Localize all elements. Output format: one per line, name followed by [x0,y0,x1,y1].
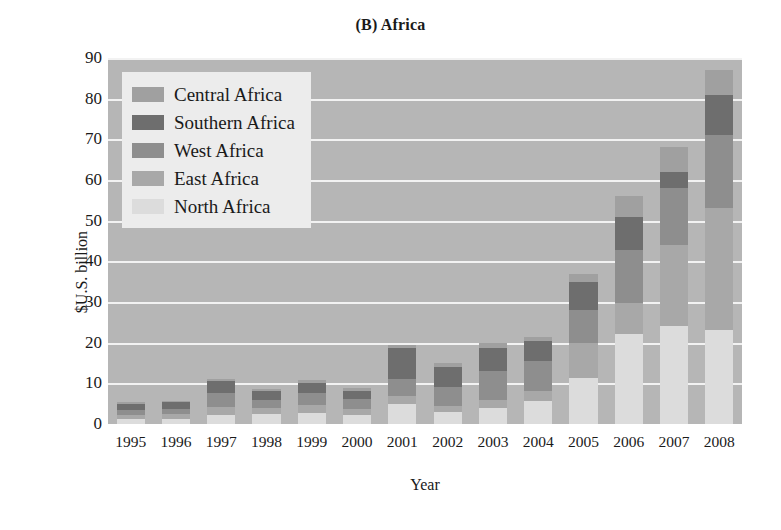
bar-segment[interactable] [252,400,280,408]
bar-segment[interactable] [162,419,190,424]
bar-segment[interactable] [660,188,688,245]
bar-segment[interactable] [117,410,145,415]
x-axis-tick-label: 2005 [561,432,606,452]
bar-group[interactable] [434,58,462,424]
bar-segment[interactable] [569,378,597,424]
bar-segment[interactable] [343,399,371,409]
bar-group[interactable] [660,58,688,424]
legend-swatch-icon [132,143,164,158]
bar-segment[interactable] [705,70,733,94]
bar-segment[interactable] [388,404,416,424]
bar-segment[interactable] [207,415,235,424]
bar-segment[interactable] [479,371,507,399]
bar-segment[interactable] [298,413,326,424]
bar-segment[interactable] [252,414,280,424]
bar-segment[interactable] [660,326,688,424]
bar-segment[interactable] [388,396,416,404]
legend-item[interactable]: Central Africa [132,80,295,108]
bar-segment[interactable] [117,402,145,404]
bar-segment[interactable] [479,343,507,348]
x-axis-tick-label: 2001 [380,432,425,452]
bar-segment[interactable] [162,414,190,418]
bar-segment[interactable] [615,196,643,217]
bar-segment[interactable] [524,401,552,424]
bar-segment[interactable] [252,389,280,391]
bar-segment[interactable] [705,95,733,136]
bar-segment[interactable] [660,147,688,171]
bar-segment[interactable] [207,381,235,393]
bar-segment[interactable] [524,361,552,391]
bar-segment[interactable] [298,380,326,382]
bar-segment[interactable] [343,415,371,424]
x-axis-tick-label: 1998 [244,432,289,452]
bar-segment[interactable] [117,415,145,419]
bar-segment[interactable] [388,348,416,379]
legend-item[interactable]: East Africa [132,164,295,192]
bar-segment[interactable] [162,401,190,403]
bar-segment[interactable] [298,393,326,405]
bar-group[interactable] [705,58,733,424]
bar-segment[interactable] [705,135,733,208]
bar-segment[interactable] [252,391,280,399]
bar-segment[interactable] [162,402,190,409]
bar-group[interactable] [524,58,552,424]
bar-group[interactable] [569,58,597,424]
bar-segment[interactable] [388,345,416,348]
bar-segment[interactable] [705,208,733,330]
bar-segment[interactable] [660,172,688,188]
bar-segment[interactable] [434,412,462,424]
bar-segment[interactable] [569,274,597,282]
y-axis-tick-label: 60 [58,171,102,188]
x-axis-title: Year [108,476,742,494]
legend-swatch-icon [132,115,164,130]
bar-group[interactable] [479,58,507,424]
bar-segment[interactable] [569,282,597,310]
chart-title: (B) Africa [0,16,781,34]
bar-segment[interactable] [615,303,643,334]
bar-segment[interactable] [615,250,643,303]
bar-segment[interactable] [479,348,507,372]
bar-segment[interactable] [434,406,462,413]
bar-segment[interactable] [434,367,462,387]
bar-segment[interactable] [479,408,507,424]
bar-segment[interactable] [117,404,145,410]
bar-segment[interactable] [524,337,552,341]
x-axis-tick-label: 1995 [108,432,153,452]
legend-item[interactable]: North Africa [132,192,295,220]
bar-segment[interactable] [615,217,643,250]
bar-group[interactable] [343,58,371,424]
bar-segment[interactable] [343,388,371,390]
bar-segment[interactable] [569,310,597,343]
bar-segment[interactable] [162,409,190,414]
bar-segment[interactable] [117,419,145,424]
bar-segment[interactable] [524,391,552,402]
bar-segment[interactable] [388,379,416,396]
bar-segment[interactable] [660,245,688,326]
bar-segment[interactable] [569,343,597,379]
bar-stack [569,274,597,424]
bar-group[interactable] [388,58,416,424]
bar-segment[interactable] [615,334,643,424]
x-axis-tick-label: 2007 [651,432,696,452]
bar-segment[interactable] [298,405,326,413]
bar-segment[interactable] [298,383,326,394]
y-axis-tick-label: 90 [58,49,102,66]
bar-segment[interactable] [343,391,371,399]
bar-segment[interactable] [434,363,462,367]
bar-segment[interactable] [705,330,733,424]
bar-segment[interactable] [524,341,552,361]
bar-stack [705,70,733,424]
bar-segment[interactable] [207,407,235,416]
bar-group[interactable] [615,58,643,424]
bar-segment[interactable] [479,400,507,408]
y-axis-tick-label: 10 [58,374,102,391]
legend-item[interactable]: West Africa [132,136,295,164]
x-axis-tick-label: 1996 [153,432,198,452]
bar-segment[interactable] [343,409,371,416]
y-axis-tick-label: 50 [58,212,102,229]
bar-segment[interactable] [252,408,280,415]
legend-item[interactable]: Southern Africa [132,108,295,136]
bar-segment[interactable] [207,379,235,381]
bar-segment[interactable] [207,393,235,406]
bar-segment[interactable] [434,387,462,405]
